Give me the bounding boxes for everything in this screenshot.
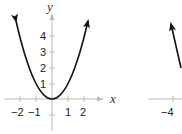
left-chart: −2 −1 1 2 1 2 3 4 y x xyxy=(4,0,116,131)
chart-canvas: −2 −1 1 2 1 2 3 4 y x −4 xyxy=(0,0,182,134)
y-tick-label: 2 xyxy=(40,62,46,74)
y-tick-label: 3 xyxy=(40,46,46,58)
y-tick-label: 1 xyxy=(40,78,46,90)
y-axis-label: y xyxy=(45,0,53,14)
x-tick-label: 2 xyxy=(80,106,86,118)
x-tick-label: 1 xyxy=(65,106,71,118)
x-tick-label: −2 xyxy=(11,106,24,118)
x-tick-label: −1 xyxy=(28,106,41,118)
partial-curve xyxy=(171,24,181,68)
x-axis-label: x xyxy=(109,91,116,106)
partial-x-tick-label: −4 xyxy=(161,106,174,118)
right-chart-partial: −4 xyxy=(148,24,182,118)
y-tick-label: 4 xyxy=(40,30,46,42)
